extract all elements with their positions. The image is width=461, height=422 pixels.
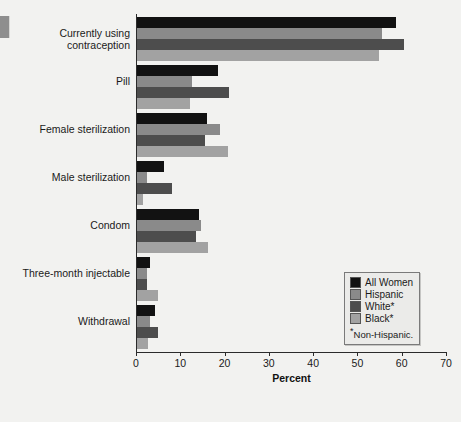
- legend-label-hispanic: Hispanic: [365, 289, 403, 300]
- bar: [136, 87, 229, 98]
- bar: [136, 28, 382, 39]
- legend-swatch-white: [350, 301, 361, 312]
- legend-item-hispanic: Hispanic: [350, 289, 413, 300]
- bar: [136, 305, 155, 316]
- bar: [136, 290, 158, 301]
- bar: [136, 279, 147, 290]
- bar-group: [136, 17, 446, 61]
- chart-legend: All Women Hispanic White* Black* *Non-Hi…: [344, 272, 420, 345]
- x-tick-label: 40: [307, 357, 319, 369]
- x-tick-label: 70: [440, 357, 452, 369]
- bar: [136, 17, 396, 28]
- bar: [136, 209, 199, 220]
- legend-label-all-women: All Women: [365, 277, 413, 288]
- bar-group: [136, 65, 446, 109]
- bar: [136, 316, 150, 327]
- x-tick: [225, 352, 226, 356]
- category-axis-labels: Currently using contraceptionPillFemale …: [0, 14, 130, 352]
- y-axis-line: [136, 14, 137, 353]
- x-tick-label: 0: [133, 357, 139, 369]
- bar: [136, 113, 207, 124]
- bar: [136, 50, 379, 61]
- bar-chart: Currently using contraceptionPillFemale …: [0, 0, 461, 422]
- x-tick-label: 50: [352, 357, 364, 369]
- x-tick: [269, 352, 270, 356]
- category-label: Three-month injectable: [2, 267, 130, 279]
- legend-item-all-women: All Women: [350, 277, 413, 288]
- bar: [136, 39, 404, 50]
- x-tick: [180, 352, 181, 356]
- legend-item-black: Black*: [350, 313, 413, 324]
- x-tick-label: 20: [219, 357, 231, 369]
- category-label: Pill: [2, 75, 130, 87]
- bar-group: [136, 113, 446, 157]
- bar: [136, 161, 164, 172]
- category-label: Female sterilization: [2, 123, 130, 135]
- category-label: Male sterilization: [2, 171, 130, 183]
- bar: [136, 338, 148, 349]
- x-axis-line: [136, 352, 447, 353]
- x-tick: [357, 352, 358, 356]
- legend-footnote-text: Non-Hispanic.: [354, 329, 414, 340]
- category-label: Condom: [2, 219, 130, 231]
- x-tick: [446, 352, 447, 356]
- legend-swatch-black: [350, 313, 361, 324]
- bar: [136, 172, 147, 183]
- bar: [136, 231, 196, 242]
- x-tick: [402, 352, 403, 356]
- category-label: Currently using contraception: [2, 27, 130, 51]
- bar: [136, 76, 192, 87]
- bar: [136, 65, 218, 76]
- bar-group: [136, 209, 446, 253]
- legend-footnote: *Non-Hispanic.: [350, 326, 413, 340]
- legend-label-white: White*: [365, 301, 394, 312]
- legend-item-white: White*: [350, 301, 413, 312]
- bar: [136, 98, 190, 109]
- legend-swatch-all-women: [350, 277, 361, 288]
- x-tick-label: 30: [263, 357, 275, 369]
- bar: [136, 220, 201, 231]
- x-tick: [136, 352, 137, 356]
- bar-group: [136, 161, 446, 205]
- x-axis-title: Percent: [136, 372, 447, 384]
- bar: [136, 327, 158, 338]
- x-tick: [313, 352, 314, 356]
- bar: [136, 194, 143, 205]
- bar: [136, 124, 220, 135]
- bar: [136, 257, 150, 268]
- x-tick-label: 10: [174, 357, 186, 369]
- x-tick-label: 60: [396, 357, 408, 369]
- bar: [136, 242, 208, 253]
- category-label: Withdrawal: [2, 315, 130, 327]
- bar: [136, 268, 147, 279]
- legend-swatch-hispanic: [350, 289, 361, 300]
- bar: [136, 146, 228, 157]
- bar: [136, 135, 205, 146]
- bar: [136, 183, 172, 194]
- legend-label-black: Black*: [365, 313, 393, 324]
